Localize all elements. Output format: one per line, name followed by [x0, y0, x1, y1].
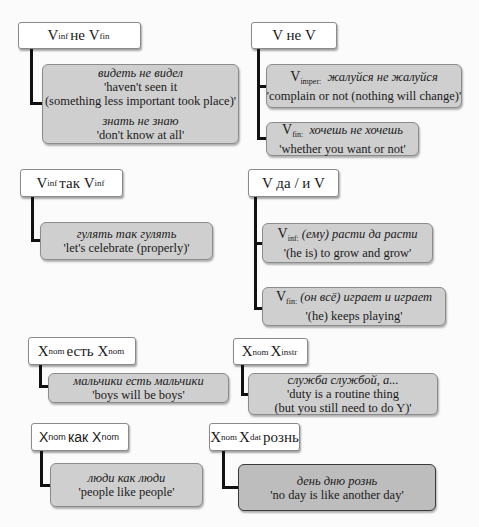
example-box: Vfin: хочешь не хочешь 'whether you want…: [266, 122, 419, 156]
pattern-label: V: [276, 289, 286, 304]
header-subscript: inf: [47, 178, 57, 188]
header-word: как: [68, 429, 88, 445]
construction-header-vinf-ne-vfin: Vinf не Vfin: [18, 22, 141, 49]
header-base: V: [47, 27, 58, 44]
example-phrase: (ему) расти да расти: [302, 227, 418, 241]
example-phrase-row: Vimper: жалуйся не жалуйся: [290, 70, 437, 89]
connector-line: [222, 486, 239, 489]
example-phrase: (он всё) играет и играет: [300, 290, 432, 304]
construction-header-xnom-est-xnom: Xnom есть Xnom: [28, 337, 136, 365]
example-gloss: 'haven't seen it: [104, 80, 177, 94]
example-box: люди как люди 'people like people': [50, 463, 203, 507]
example-gloss: 'don't know at all': [97, 128, 185, 142]
header-subscript: nom: [221, 432, 237, 442]
construction-header-vinf-tak-vinf: Vinf так Vinf: [20, 169, 123, 197]
example-box: видеть не видел 'haven't seen it (someth…: [42, 64, 239, 144]
example-box: мальчики есть мальчики 'boys will be boy…: [48, 373, 229, 403]
example-box: Vimper: жалуйся не жалуйся 'complain or …: [266, 64, 462, 108]
header-subscript: dat: [250, 432, 261, 442]
example-phrase: видеть не видел: [98, 66, 183, 80]
connector-line: [241, 365, 244, 396]
pattern-label: V: [282, 122, 292, 137]
example-gloss: '(he) keeps playing': [306, 309, 403, 323]
connector-line: [40, 451, 43, 487]
connector-line: [31, 197, 34, 242]
example-phrase: день дню рознь: [297, 474, 378, 488]
construction-header-v-da-i-v: V да / и V: [248, 169, 339, 197]
example-phrase-row: Vinf:(ему) расти да расти: [278, 227, 418, 246]
example-phrase: служба службой, а...: [287, 373, 398, 387]
header-subscript: fin: [100, 31, 110, 41]
header-subscript: inf: [58, 31, 68, 41]
example-box: день дню рознь 'no day is like another d…: [238, 464, 436, 511]
header-base: X: [39, 429, 48, 445]
header-base: X: [210, 429, 221, 446]
example-phrase: знать не знаю: [102, 114, 178, 128]
header-base: X: [239, 429, 250, 446]
header-base: V: [36, 175, 47, 192]
example-gloss: 'duty is a routine thing: [287, 387, 399, 401]
header-base: X: [271, 343, 282, 360]
header-subscript: nom: [49, 346, 65, 356]
pattern-subscript: inf:: [288, 234, 299, 243]
header-subscript: inf: [95, 178, 105, 188]
header-text: V да / и V: [262, 175, 325, 192]
example-gloss: (something less important took place)': [45, 94, 236, 108]
connector-line: [254, 197, 257, 310]
header-base: X: [242, 343, 253, 360]
example-gloss: 'whether you want or not': [279, 142, 406, 156]
example-gloss: '(he is) to grow and grow': [284, 246, 412, 260]
header-word: есть: [67, 343, 94, 360]
pattern-label: V: [278, 226, 288, 241]
example-phrase: жалуйся не жалуйся: [327, 70, 437, 84]
header-text: V не V: [272, 27, 316, 44]
pattern-label: V: [290, 69, 300, 84]
example-phrase-row: Vfin:(он всё) играет и играет: [276, 290, 432, 309]
example-box: Vfin:(он всё) играет и играет '(he) keep…: [262, 287, 446, 326]
header-word: не: [70, 27, 85, 44]
header-word: рознь: [263, 429, 299, 446]
connector-line: [257, 49, 260, 140]
connector-line: [222, 451, 225, 489]
header-subscript: nom: [48, 432, 66, 442]
construction-header-xnom-xdat-rozn: XnomXdatрознь: [209, 423, 300, 451]
header-base: X: [38, 343, 49, 360]
example-box: Vinf:(ему) расти да расти '(he is) to gr…: [262, 223, 433, 263]
example-box: гулять так гулять 'let's celebrate (prop…: [40, 222, 213, 260]
header-base: V: [84, 175, 95, 192]
example-gloss: 'complain or not (nothing will change)': [267, 89, 461, 103]
header-subscript: nom: [108, 346, 124, 356]
header-base: X: [92, 429, 101, 445]
header-word: так: [59, 175, 80, 192]
example-gloss: 'people like people': [78, 485, 174, 499]
example-box: служба службой, а... 'duty is a routine …: [248, 373, 438, 415]
example-phrase-row: Vfin: хочешь не хочешь: [282, 123, 403, 142]
example-gloss: (but you still need to do Y)': [274, 401, 411, 415]
connector-line: [30, 49, 33, 105]
construction-header-xnom-xinstr: XnomXinstr: [233, 338, 308, 365]
header-base: V: [89, 27, 100, 44]
construction-header-xnom-kak-xnom: Xnom как Xnom: [31, 423, 129, 451]
example-gloss: 'boys will be boys': [92, 388, 184, 402]
pattern-subscript: fin:: [286, 297, 297, 306]
example-phrase: хочешь не хочешь: [309, 123, 403, 137]
header-base: X: [97, 343, 108, 360]
header-subscript: instr: [281, 347, 297, 357]
example-phrase: гулять так гулять: [77, 227, 177, 241]
header-subscript: nom: [252, 347, 268, 357]
pattern-subscript: imper:: [300, 77, 321, 86]
header-subscript: nom: [101, 432, 119, 442]
example-phrase: люди как люди: [88, 471, 166, 485]
example-phrase: мальчики есть мальчики: [73, 374, 203, 388]
example-gloss: 'no day is like another day': [270, 488, 403, 502]
example-gloss: 'let's celebrate (properly)': [63, 241, 189, 255]
construction-header-v-ne-v: V не V: [251, 22, 337, 49]
pattern-subscript: fin:: [292, 130, 303, 139]
